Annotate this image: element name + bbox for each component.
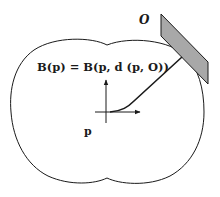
formula-equals: =: [70, 60, 80, 74]
formula-rhs: B(p, d (p, O)): [83, 60, 169, 74]
obstacle-label: O: [139, 14, 149, 26]
diagram-canvas: [0, 0, 220, 197]
point-label: p: [84, 126, 92, 137]
formula-label: B(p) = B(p, d (p, O)): [37, 62, 169, 74]
formula-lhs: B(p): [37, 60, 66, 74]
